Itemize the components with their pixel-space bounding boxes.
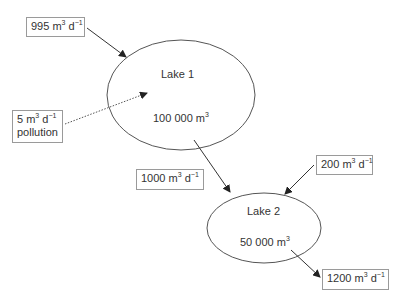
lake-1-volume: 100 000 m3 bbox=[153, 112, 209, 124]
diagram-canvas bbox=[0, 0, 401, 301]
pollution-arrow bbox=[65, 93, 147, 124]
flow-value: 200 m bbox=[321, 158, 352, 170]
inflow-lake2-arrow bbox=[285, 165, 314, 194]
pollution-label: pollution bbox=[17, 126, 58, 138]
lake-2-name: Lake 2 bbox=[247, 205, 280, 217]
lake-volume-exp: 3 bbox=[205, 111, 209, 118]
inflow-lake1-box: 995 m3 d−1 bbox=[26, 17, 85, 37]
lake1-to-lake2-box: 1000 m3 d−1 bbox=[136, 169, 204, 190]
lake-2-shape bbox=[207, 193, 321, 263]
flow-exp: −1 bbox=[48, 112, 56, 119]
flow-value: 5 m bbox=[17, 113, 35, 125]
flow-unit: d bbox=[65, 20, 74, 32]
flow-exp: −1 bbox=[191, 171, 199, 178]
flow-value: 1200 m bbox=[327, 272, 364, 284]
flow-value: 1000 m bbox=[141, 172, 178, 184]
flow-unit: d bbox=[355, 158, 364, 170]
flow-exp: −1 bbox=[377, 271, 385, 278]
lake-volume-value: 50 000 m bbox=[240, 236, 286, 248]
flow-unit: d bbox=[368, 272, 377, 284]
lake-2-volume: 50 000 m3 bbox=[240, 236, 290, 248]
flow-exp: −1 bbox=[75, 19, 83, 26]
lake-volume-exp: 3 bbox=[286, 235, 290, 242]
pollution-box: 5 m3 d−1 pollution bbox=[12, 110, 63, 143]
inflow-lake2-box: 200 m3 d−1 bbox=[316, 155, 373, 175]
flow-value: 995 m bbox=[31, 20, 62, 32]
lake-1-shape bbox=[107, 40, 255, 150]
flow-exp: −1 bbox=[365, 157, 373, 164]
outflow-lake2-arrow bbox=[291, 250, 320, 277]
inflow-lake1-arrow bbox=[87, 28, 126, 57]
outflow-lake2-box: 1200 m3 d−1 bbox=[322, 269, 389, 290]
flow-unit: d bbox=[182, 172, 191, 184]
lake-volume-value: 100 000 m bbox=[153, 112, 205, 124]
lake-1-name: Lake 1 bbox=[161, 68, 194, 80]
